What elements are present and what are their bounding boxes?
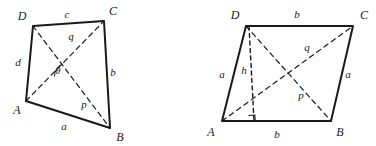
diagonal-label-p-right: p	[298, 90, 304, 101]
side-label-a-left: a	[61, 121, 67, 132]
side-label-c-left: c	[65, 9, 70, 20]
diagonal-label-p-left: p	[81, 99, 87, 110]
vertex-label-b-left: B	[116, 131, 123, 143]
vertex-label-a-left: A	[13, 104, 20, 116]
side-label-b-bottom-right: b	[274, 129, 280, 140]
height-label-h: h	[241, 65, 247, 76]
side-label-b-left: b	[110, 67, 116, 78]
side-label-a-right-right: a	[345, 69, 351, 80]
geometry-figure-canvas: D C A B c b a d q p θ D C A B b b a a q …	[0, 0, 376, 146]
angle-label-theta: θ	[56, 66, 61, 76]
height-h-line	[249, 26, 254, 121]
vertex-label-d-right: D	[231, 9, 240, 21]
vertex-label-a-right: A	[207, 126, 214, 138]
diagonal-label-q-right: q	[304, 42, 310, 53]
side-label-d-left: d	[15, 57, 21, 68]
diagonal-label-q-left: q	[68, 31, 74, 42]
side-label-b-top-right: b	[294, 9, 300, 20]
diagonal-p-line	[26, 21, 104, 101]
vertex-label-d-left: D	[18, 10, 27, 22]
vertex-label-c-left: C	[109, 5, 117, 17]
vertex-label-c-right: C	[360, 9, 368, 21]
diagonal-p-line	[246, 26, 331, 121]
side-label-a-left-right: a	[219, 69, 225, 80]
vertex-label-b-right: B	[336, 126, 343, 138]
